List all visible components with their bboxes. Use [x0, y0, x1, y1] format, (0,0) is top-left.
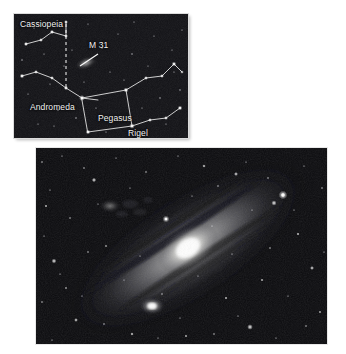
andromeda-galaxy-photo — [36, 148, 327, 344]
chart-film-grain — [14, 14, 188, 138]
galaxy-photo-canvas — [36, 148, 327, 344]
astronomy-figure: Cassiopeia M 31 Andromeda Pegasus Rigel — [0, 0, 346, 354]
constellation-finder-chart: Cassiopeia M 31 Andromeda Pegasus Rigel — [14, 14, 188, 138]
chart-canvas — [14, 14, 188, 138]
film-grain — [36, 148, 327, 344]
